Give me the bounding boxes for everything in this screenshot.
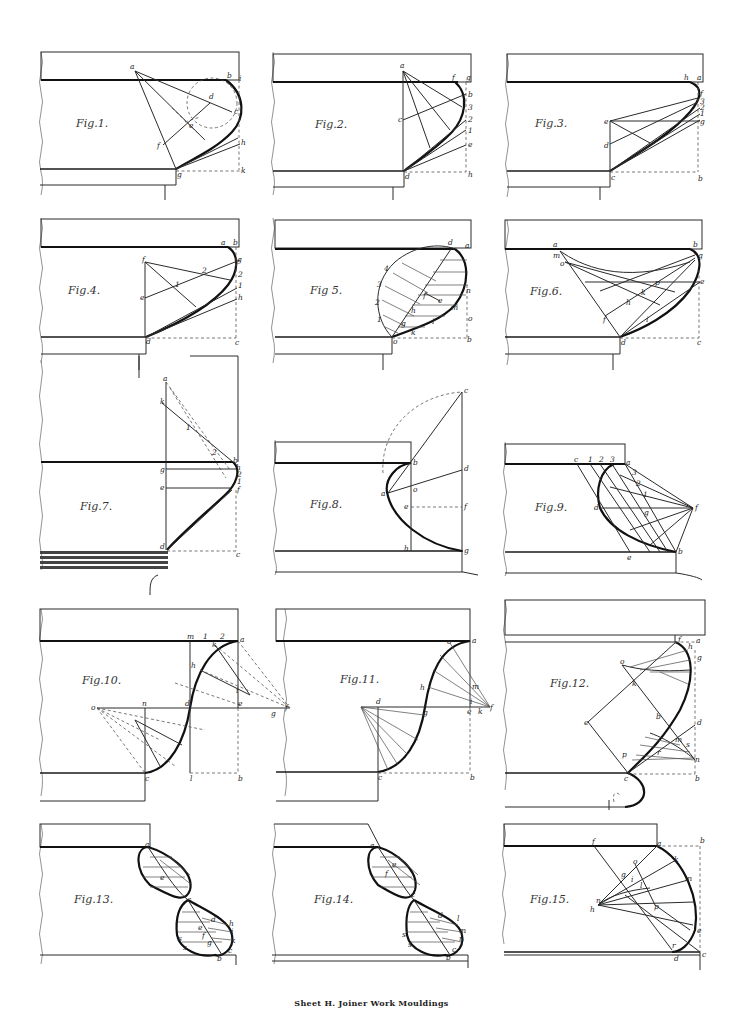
svg-text:a: a (472, 636, 476, 645)
svg-text:e: e (238, 699, 243, 708)
svg-text:g: g (700, 117, 705, 126)
svg-text:m: m (187, 632, 194, 641)
svg-text:i: i (239, 74, 242, 83)
svg-text:h: h (420, 683, 425, 692)
svg-text:g: g (466, 73, 471, 82)
svg-text:2: 2 (374, 298, 380, 307)
svg-text:b: b (695, 774, 700, 783)
figure-15: fab okg ilm nhp erd c Fig.15. (503, 824, 708, 970)
figure-3: haf 321 ged cb Fig.3. (506, 54, 706, 200)
svg-text:p: p (655, 278, 660, 287)
svg-text:k: k (632, 679, 637, 688)
svg-text:b: b (468, 90, 473, 99)
svg-text:a: a (626, 458, 630, 467)
svg-text:p: p (622, 750, 627, 759)
svg-text:d: d (438, 911, 443, 920)
svg-text:Fig.13.: Fig.13. (73, 893, 113, 906)
svg-text:b: b (693, 240, 698, 249)
svg-text:d: d (376, 697, 381, 706)
svg-text:f: f (156, 141, 161, 150)
svg-text:d: d (448, 238, 453, 247)
svg-text:g: g (237, 255, 242, 264)
svg-text:e: e (467, 707, 472, 716)
svg-text:d: d (160, 542, 165, 551)
svg-text:n: n (466, 286, 471, 295)
svg-text:Fig.10.: Fig.10. (81, 674, 121, 687)
svg-text:h: h (688, 642, 693, 651)
svg-text:k: k (478, 707, 483, 716)
svg-text:r: r (657, 748, 661, 757)
svg-text:d: d (185, 699, 190, 708)
svg-text:m: m (685, 874, 692, 883)
svg-text:k: k (674, 855, 679, 864)
svg-text:p: p (654, 902, 659, 911)
svg-text:e: e (160, 483, 165, 492)
figure-10: m12 kah ion deg fcl b Fig.10. (40, 609, 291, 801)
svg-text:i: i (432, 317, 435, 326)
svg-text:a: a (145, 840, 149, 849)
svg-text:3: 3 (377, 280, 382, 289)
svg-text:h: h (238, 293, 243, 302)
svg-text:c: c (378, 773, 383, 782)
svg-text:4: 4 (383, 264, 389, 273)
svg-text:1: 1 (468, 126, 473, 135)
svg-text:k: k (411, 328, 416, 337)
svg-text:f: f (602, 315, 607, 324)
svg-text:b: b (233, 238, 238, 247)
svg-text:d: d (697, 718, 702, 727)
svg-text:b: b (238, 774, 243, 783)
svg-text:e: e (140, 293, 145, 302)
svg-text:1: 1 (175, 280, 180, 289)
svg-text:g: g (401, 319, 406, 328)
svg-text:a: a (697, 73, 701, 82)
svg-text:a: a (240, 635, 244, 644)
svg-text:Fig.11.: Fig.11. (339, 673, 379, 686)
svg-text:b: b (217, 954, 222, 963)
svg-text:e: e (468, 140, 473, 149)
svg-text:3: 3 (468, 103, 473, 112)
svg-text:h: h (626, 298, 631, 307)
svg-text:h: h (191, 661, 196, 670)
svg-text:k: k (231, 936, 236, 945)
svg-text:d: d (674, 954, 679, 963)
svg-text:f: f (694, 503, 699, 512)
svg-text:Fig.15.: Fig.15. (529, 893, 569, 906)
svg-text:f: f (677, 635, 682, 644)
svg-text:2: 2 (237, 270, 243, 279)
svg-text:b: b (413, 458, 418, 467)
svg-text:h: h (468, 170, 473, 179)
svg-text:2: 2 (211, 448, 217, 457)
figure-9: c12 3a3 21f dge b Fig.9. (504, 442, 703, 580)
svg-text:1: 1 (238, 281, 243, 290)
svg-text:c: c (235, 338, 240, 347)
svg-text:k: k (241, 166, 246, 175)
svg-text:a: a (465, 241, 469, 250)
svg-text:n: n (596, 896, 601, 905)
svg-text:m: m (675, 735, 682, 744)
svg-text:a: a (163, 374, 167, 383)
svg-text:d: d (209, 92, 214, 101)
svg-text:Fig.3.: Fig.3. (534, 117, 567, 130)
svg-text:l: l (457, 914, 460, 923)
svg-text:c: c (697, 338, 702, 347)
svg-text:Fig.12.: Fig.12. (549, 677, 589, 690)
svg-text:h: h (411, 306, 416, 315)
svg-text:g: g (698, 251, 703, 260)
svg-text:d: d (211, 915, 216, 924)
svg-text:2: 2 (598, 455, 604, 464)
svg-text:e: e (160, 873, 165, 882)
svg-text:Fig.1.: Fig.1. (75, 117, 108, 130)
svg-text:c: c (234, 107, 239, 116)
svg-text:f: f (489, 703, 494, 712)
svg-text:e: e (404, 502, 409, 511)
svg-text:h: h (590, 905, 595, 914)
svg-text:k: k (641, 288, 646, 297)
svg-text:i: i (646, 315, 649, 324)
svg-text:e: e (438, 296, 443, 305)
svg-text:b: b (467, 335, 472, 344)
svg-text:Fig.2.: Fig.2. (314, 118, 347, 131)
svg-text:g: g (621, 870, 626, 879)
svg-text:a: a (370, 841, 374, 850)
svg-text:e: e (584, 718, 589, 727)
svg-text:b: b (698, 174, 703, 183)
